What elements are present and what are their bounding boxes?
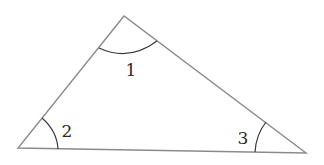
angle-2-label: 2	[62, 121, 73, 141]
angle-1-arc	[99, 41, 157, 54]
angle-3-label: 3	[238, 128, 249, 148]
angle-3-arc	[255, 122, 266, 152]
triangle-diagram: 1 2 3	[0, 0, 324, 165]
angle-2-arc	[42, 118, 58, 149]
angle-1-label: 1	[126, 60, 137, 80]
